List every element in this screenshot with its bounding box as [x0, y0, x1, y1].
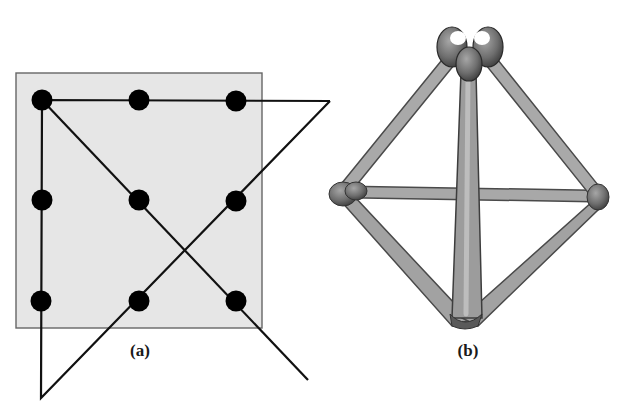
node-right	[587, 184, 609, 210]
dot	[129, 90, 150, 111]
dot	[226, 91, 247, 112]
dot	[31, 291, 52, 312]
match-head-top-front	[456, 47, 482, 81]
dot	[226, 291, 247, 312]
stick-top-right-fill	[490, 60, 594, 190]
node-left-2	[345, 182, 367, 200]
stick-top-bottom-highlight	[466, 76, 468, 314]
match-head-highlight-left	[450, 31, 466, 45]
dot	[226, 191, 247, 212]
dot	[32, 90, 53, 111]
dot	[129, 190, 150, 211]
sticks	[340, 60, 600, 326]
panel-a-label: (a)	[130, 341, 150, 361]
stick-top-left-fill	[346, 60, 450, 188]
panel-b-matchstick-tetrahedron	[329, 27, 609, 329]
panel-a-nine-dot-puzzle	[16, 73, 330, 398]
stick-left-bottom	[340, 194, 470, 326]
match-head-highlight-right	[474, 31, 490, 45]
figure-canvas	[0, 0, 628, 417]
stick-right-bottom	[462, 202, 600, 326]
panel-b-label: (b)	[458, 341, 479, 361]
dot	[129, 291, 150, 312]
dot	[32, 190, 53, 211]
